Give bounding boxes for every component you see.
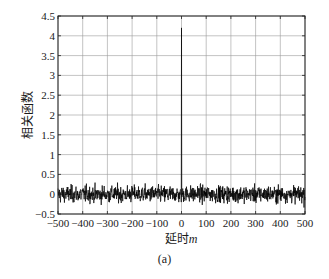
x-tick-label: −300 bbox=[96, 217, 119, 229]
y-tick-label: 1 bbox=[50, 149, 56, 161]
x-tick-label: 0 bbox=[179, 217, 185, 229]
data-series bbox=[58, 28, 305, 208]
x-tick-label: 200 bbox=[223, 217, 240, 229]
x-tick-label: −400 bbox=[71, 217, 94, 229]
y-tick-label: 1.5 bbox=[41, 129, 55, 141]
y-tick-label: 0 bbox=[50, 188, 56, 200]
figure-caption: (a) bbox=[0, 252, 329, 267]
y-tick-labels: −0.500.511.522.533.544.5 bbox=[35, 10, 55, 220]
y-tick-label: 4.5 bbox=[41, 10, 55, 22]
x-tick-label: −200 bbox=[121, 217, 144, 229]
correlation-line bbox=[58, 28, 305, 208]
y-tick-label: 2 bbox=[50, 109, 56, 121]
x-tick-labels: −500−400−300−200−1000100200300400500 bbox=[47, 217, 314, 229]
x-tick-label: 100 bbox=[198, 217, 215, 229]
x-axis-title: 延时m bbox=[165, 232, 198, 246]
y-tick-label: 0.5 bbox=[41, 168, 55, 180]
correlation-chart: −0.500.511.522.533.544.5 −500−400−300−20… bbox=[0, 0, 329, 279]
x-tick-label: 400 bbox=[272, 217, 289, 229]
x-tick-label: −100 bbox=[145, 217, 168, 229]
x-tick-label: 300 bbox=[247, 217, 264, 229]
x-tick-label: 500 bbox=[297, 217, 314, 229]
y-tick-label: 3.5 bbox=[41, 50, 55, 62]
x-tick-label: −500 bbox=[47, 217, 70, 229]
y-tick-label: 3 bbox=[50, 69, 56, 81]
y-tick-label: 4 bbox=[50, 30, 56, 42]
y-tick-label: 2.5 bbox=[41, 89, 55, 101]
y-axis-title: 相关函数 bbox=[20, 91, 35, 139]
